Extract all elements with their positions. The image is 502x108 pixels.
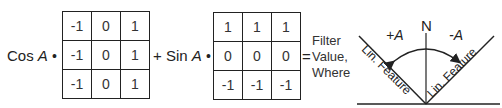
cos-variable: A <box>38 47 48 64</box>
plus-angle-label: +A <box>386 27 404 43</box>
kernel-cell: -1 <box>272 71 301 100</box>
kernel-cell: 1 <box>214 13 243 42</box>
kernel-cell: 1 <box>121 70 150 99</box>
multiply-dot: • <box>52 48 57 64</box>
angle-diagram: N +A -A Lin. Feature Lin. Feature <box>355 0 502 108</box>
minus-angle-label: -A <box>449 27 463 43</box>
cos-term-label: Cos A • <box>7 47 57 64</box>
cos-func: Cos <box>7 47 34 64</box>
kernel-cell: 1 <box>243 13 272 42</box>
result-text: Filter Value, Where <box>312 33 350 81</box>
right-feature-label: Lin. Feature <box>424 45 479 100</box>
kernel-cell: 0 <box>272 42 301 71</box>
kernel-cell: 0 <box>92 41 121 70</box>
kernel-cell: 1 <box>121 41 150 70</box>
left-feature-label: Lin. Feature <box>359 42 414 97</box>
kernel-cell: 1 <box>121 12 150 41</box>
sin-kernel-grid: 1 1 1 0 0 0 -1 -1 -1 <box>213 12 301 100</box>
result-line-value: Value, <box>312 49 350 65</box>
sin-func: Sin <box>166 47 188 64</box>
cos-kernel-grid: -1 0 1 -1 0 1 -1 0 1 <box>62 11 150 99</box>
kernel-cell: 0 <box>92 70 121 99</box>
kernel-cell: 1 <box>272 13 301 42</box>
kernel-cell: -1 <box>63 70 92 99</box>
equals-sign: = <box>302 48 311 65</box>
north-label: N <box>421 17 432 34</box>
multiply-dot: • <box>206 48 211 64</box>
kernel-cell: -1 <box>243 71 272 100</box>
result-line-where: Where <box>312 65 350 81</box>
kernel-cell: 0 <box>243 42 272 71</box>
kernel-cell: -1 <box>214 71 243 100</box>
result-line-filter: Filter <box>312 33 350 49</box>
sin-variable: A <box>192 47 202 64</box>
plus-sign: + <box>153 47 162 64</box>
kernel-cell: 0 <box>214 42 243 71</box>
kernel-cell: -1 <box>63 41 92 70</box>
kernel-cell: -1 <box>63 12 92 41</box>
kernel-cell: 0 <box>92 12 121 41</box>
sin-term-label: + Sin A • <box>153 47 211 64</box>
